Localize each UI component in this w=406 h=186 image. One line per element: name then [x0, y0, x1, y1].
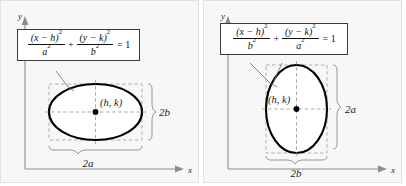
equals-one: = 1 — [114, 40, 130, 50]
width-brace — [49, 146, 142, 154]
width-label: 2a — [83, 157, 95, 169]
second-numerator: (y − k)2 — [77, 32, 114, 45]
first-denominator-exponent: 2 — [253, 36, 256, 43]
second-numerator-text: (y − k) — [80, 32, 107, 43]
plus-operator: + — [66, 40, 76, 50]
y-axis-label: y — [17, 11, 22, 21]
height-label: 2b — [159, 106, 171, 118]
height-brace — [148, 84, 156, 140]
first-numerator-text: (x − h) — [31, 32, 59, 43]
equation-box: (x − h)2 a2 + (y − k)2 b2 = 1 — [17, 29, 140, 61]
second-denominator: a2 — [293, 39, 307, 51]
center-coordinate-label: (h, k) — [268, 94, 291, 106]
second-denominator-exponent: 2 — [301, 36, 304, 43]
width-brace — [266, 156, 327, 164]
panel-vertical-major-axis: 2a 2b (h, k) y x (x − h)2 b2 + (y − k)2 … — [203, 0, 402, 183]
equation-expression: (x − h)2 a2 + (y − k)2 b2 = 1 — [27, 32, 130, 58]
width-label: 2b — [291, 167, 303, 179]
height-label: 2a — [345, 103, 357, 115]
first-numerator: (x − h)2 — [233, 26, 270, 39]
second-fraction: (y − k)2 b2 — [77, 32, 114, 58]
x-axis-label: x — [187, 165, 192, 175]
second-denominator: b2 — [88, 45, 102, 57]
first-fraction: (x − h)2 a2 — [28, 32, 65, 58]
equals-one: = 1 — [320, 34, 336, 44]
height-brace — [333, 65, 341, 149]
first-numerator-exponent: 2 — [264, 22, 267, 29]
panel-horizontal-major-axis: 2b 2a (h, k) y x (x − h)2 a2 + (y − k)2 … — [0, 0, 199, 183]
second-denominator-text: b — [91, 46, 96, 57]
first-numerator-exponent: 2 — [59, 28, 62, 35]
center-point-dot — [93, 109, 99, 115]
first-fraction: (x − h)2 b2 — [233, 26, 270, 52]
x-axis-arrow-icon — [175, 166, 184, 173]
y-axis-arrow-icon — [22, 16, 29, 25]
ellipse-figure: 2b 2a (h, k) y x (x − h)2 a2 + (y − k)2 … — [0, 0, 406, 186]
second-denominator-exponent: 2 — [96, 42, 99, 49]
x-axis-label: x — [390, 165, 395, 175]
first-denominator: b2 — [245, 39, 259, 51]
second-fraction: (y − k)2 a2 — [282, 26, 319, 52]
x-axis-arrow-icon — [378, 166, 387, 173]
equation-box: (x − h)2 b2 + (y − k)2 a2 = 1 — [220, 23, 348, 55]
first-denominator-text: b — [248, 40, 253, 51]
second-numerator-exponent: 2 — [107, 28, 110, 35]
y-axis-label: y — [220, 11, 225, 21]
equation-expression: (x − h)2 b2 + (y − k)2 a2 = 1 — [232, 26, 335, 52]
second-numerator-text: (y − k) — [285, 26, 312, 37]
first-denominator-exponent: 2 — [47, 42, 50, 49]
plus-operator: + — [271, 34, 281, 44]
second-numerator-exponent: 2 — [312, 22, 315, 29]
first-denominator: a2 — [39, 45, 53, 57]
center-coordinate-label: (h, k) — [100, 97, 123, 109]
center-point-dot — [294, 106, 300, 112]
first-numerator-text: (x − h) — [236, 26, 264, 37]
